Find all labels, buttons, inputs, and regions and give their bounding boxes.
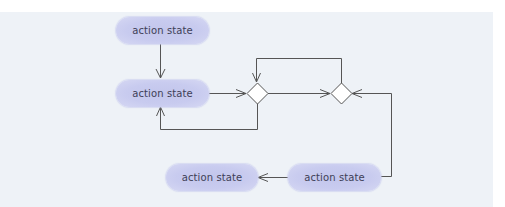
edge-decision2-to-decision1 <box>253 59 342 84</box>
action-state-node-4[interactable]: action state <box>288 164 381 191</box>
diagram-canvas: action state action state action state a… <box>0 0 505 207</box>
action-state-label: action state <box>304 172 365 183</box>
edge-action4-to-action3 <box>258 174 288 182</box>
edge-decision1-to-decision2 <box>268 90 330 98</box>
decision-node-2[interactable] <box>331 83 352 104</box>
edge-action1-to-action2 <box>156 44 165 78</box>
action-state-node-1[interactable]: action state <box>116 17 209 44</box>
edge-action2-to-decision1 <box>209 90 246 98</box>
action-state-label: action state <box>182 172 243 183</box>
action-state-node-2[interactable]: action state <box>116 80 209 107</box>
action-state-label: action state <box>132 25 193 36</box>
decision-node-1[interactable] <box>247 83 268 104</box>
action-state-label: action state <box>132 88 193 99</box>
edge-decision1-to-action2 <box>157 104 258 130</box>
action-state-node-3[interactable]: action state <box>166 164 258 191</box>
